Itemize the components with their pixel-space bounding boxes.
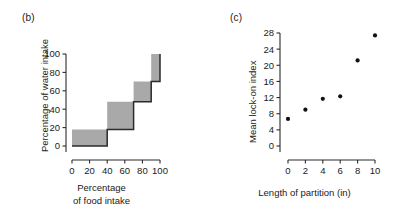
scatter-point [356, 58, 360, 62]
figure-container: (b) Percentage of water intake 020406080… [0, 0, 406, 224]
scatter-point [286, 117, 290, 121]
svg-text:40: 40 [102, 165, 113, 176]
scatter-points [286, 33, 377, 121]
svg-text:40: 40 [49, 104, 60, 115]
svg-text:4: 4 [320, 165, 325, 176]
panel-b-x-axis: 020406080100 [69, 160, 168, 176]
panel-b-x-axis-label-line1: Percentage [0, 181, 203, 194]
panel-c-x-axis-label: Length of partition (in) [203, 186, 406, 199]
svg-text:0: 0 [269, 140, 274, 151]
svg-text:24: 24 [263, 44, 274, 55]
panel-c: (c) Mean lock-on index 0481216202428 024… [203, 0, 406, 224]
svg-text:6: 6 [338, 165, 343, 176]
svg-text:20: 20 [49, 122, 60, 133]
panel-c-y-axis: 0481216202428 [263, 27, 280, 152]
panel-c-x-axis: 0246810 [285, 160, 380, 176]
svg-text:20: 20 [84, 165, 95, 176]
svg-text:8: 8 [269, 108, 274, 119]
svg-text:60: 60 [49, 85, 60, 96]
panel-b-x-axis-label: Percentage of food intake [0, 181, 203, 207]
staircase-area-fill [72, 54, 160, 146]
svg-text:16: 16 [263, 76, 274, 87]
svg-text:10: 10 [370, 165, 381, 176]
svg-text:12: 12 [263, 92, 274, 103]
scatter-point [303, 108, 307, 112]
svg-text:4: 4 [269, 124, 274, 135]
svg-text:80: 80 [137, 165, 148, 176]
scatter-point [321, 97, 325, 101]
scatter-point [373, 33, 377, 37]
svg-text:8: 8 [355, 165, 360, 176]
svg-text:80: 80 [49, 67, 60, 78]
svg-text:0: 0 [69, 165, 74, 176]
panel-b-x-axis-label-line2: of food intake [0, 194, 203, 207]
panel-b-y-axis: 020406080100 [44, 48, 66, 152]
svg-text:0: 0 [55, 140, 60, 151]
svg-text:2: 2 [303, 165, 308, 176]
svg-text:20: 20 [263, 60, 274, 71]
svg-text:0: 0 [285, 165, 290, 176]
svg-text:60: 60 [120, 165, 131, 176]
panel-b: (b) Percentage of water intake 020406080… [0, 0, 203, 224]
svg-text:100: 100 [152, 165, 168, 176]
scatter-point [338, 94, 342, 98]
svg-text:28: 28 [263, 27, 274, 38]
svg-text:100: 100 [44, 48, 60, 59]
